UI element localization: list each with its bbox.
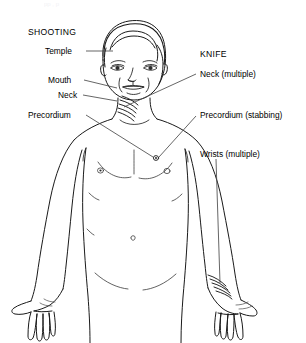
torso-outline: [31, 98, 241, 343]
chest-abdomen-detail: [87, 150, 182, 290]
label-temple: Temple: [45, 47, 72, 55]
leader-knife-wrists: [216, 159, 220, 283]
label-mouth: Mouth: [48, 76, 71, 84]
leader-neck: [83, 95, 117, 101]
leader-knife-neck: [124, 74, 196, 107]
group-heading-knife: KNIFE: [200, 50, 227, 59]
face-features: [111, 61, 157, 95]
label-wrists-multiple: Wrists (multiple): [200, 150, 260, 158]
label-neck-multiple: Neck (multiple): [200, 70, 256, 78]
head-outline: [101, 21, 168, 100]
left-hand: [12, 289, 63, 341]
leader-knife-precordium: [159, 116, 196, 157]
label-precordium-stabbing: Precordium (stabbing): [200, 111, 282, 119]
precordium-wound-marker: [153, 156, 158, 161]
label-precordium: Precordium: [28, 111, 71, 119]
label-neck: Neck: [58, 91, 77, 99]
leader-precordium: [86, 115, 153, 157]
leader-mouth: [84, 80, 117, 88]
right-hand: [208, 288, 257, 340]
group-heading-shooting: SHOOTING: [28, 28, 76, 37]
injury-diagram-page: pp , p: [0, 0, 306, 343]
leader-lines: [83, 51, 220, 283]
